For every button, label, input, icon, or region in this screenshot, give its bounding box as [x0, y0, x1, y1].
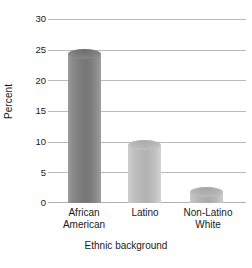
- x-tick-line1: African: [68, 207, 99, 218]
- bar-african-american[interactable]: [68, 54, 101, 203]
- x-tick-non-latino-white: Non-Latino White: [166, 207, 250, 231]
- y-axis-title: Percent: [0, 0, 18, 203]
- bar-cap-ellipse: [128, 140, 161, 150]
- gridline-30: [48, 19, 246, 20]
- bar-cap-ellipse: [68, 49, 101, 59]
- x-tick-line1: Non-Latino: [184, 207, 233, 218]
- y-tick-0: 0: [22, 198, 46, 208]
- y-tick-15: 15: [22, 106, 46, 116]
- y-tick-20: 20: [22, 76, 46, 86]
- y-tick-5: 5: [22, 168, 46, 178]
- y-axis-ticks: 30 25 20 15 10 5 0: [18, 0, 46, 268]
- x-axis-title: Ethnic background: [0, 240, 252, 251]
- bar-latino[interactable]: [128, 145, 161, 203]
- y-tick-10: 10: [22, 137, 46, 147]
- x-tick-line2: White: [166, 219, 250, 231]
- bar-non-latino-white[interactable]: [190, 192, 223, 203]
- y-tick-25: 25: [22, 45, 46, 55]
- bar-body: [128, 145, 161, 203]
- x-tick-line2: American: [44, 219, 124, 231]
- y-axis-title-label: Percent: [4, 84, 15, 119]
- plot-area: [48, 19, 246, 203]
- bar-body: [68, 54, 101, 203]
- bar-chart: Percent 30 25 20 15 10 5 0: [0, 0, 252, 268]
- x-tick-line1: Latino: [131, 207, 158, 218]
- y-tick-30: 30: [22, 14, 46, 24]
- x-axis-title-label: Ethnic background: [85, 240, 168, 251]
- bar-cap-ellipse: [190, 187, 223, 197]
